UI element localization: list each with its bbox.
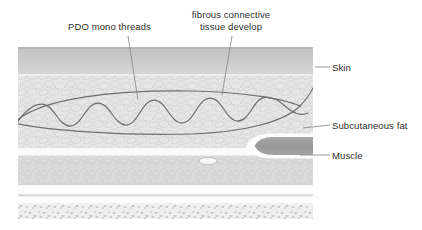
- callout-subcutaneous-fat: Subcutaneous fat: [332, 120, 408, 132]
- cross-section-illustration: [0, 0, 422, 230]
- deep-tissue-layer: [18, 204, 313, 220]
- muscle-body: [255, 137, 314, 155]
- skin-layer: [18, 49, 313, 74]
- tissue-vesicle: [199, 157, 217, 164]
- deep-fat-layer: [18, 156, 313, 186]
- callout-fibrous-line-1: fibrous connective: [192, 9, 270, 20]
- anatomical-diagram: PDO mono threads fibrous connective tiss…: [0, 0, 422, 230]
- callout-skin: Skin: [332, 62, 351, 74]
- tissue-panel: [14, 47, 313, 219]
- callout-fibrous-line-2: tissue develop: [200, 21, 262, 32]
- skin-surface-line: [18, 47, 313, 49]
- callout-fibrous-connective-tissue: fibrous connective tissue develop: [183, 9, 279, 32]
- callout-pdo-mono-threads: PDO mono threads: [68, 21, 151, 33]
- callout-muscle: Muscle: [332, 150, 363, 162]
